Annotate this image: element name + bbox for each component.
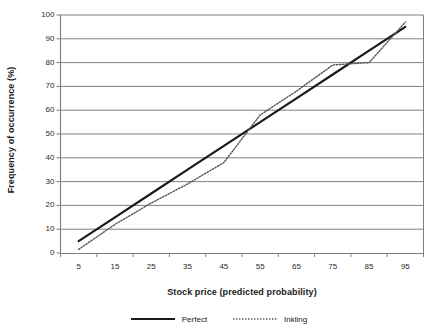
y-tick-label: 70 xyxy=(31,81,55,90)
y-tick-label: 100 xyxy=(31,10,55,19)
y-tick-label: 90 xyxy=(31,34,55,43)
legend-label-perfect: Perfect xyxy=(182,315,207,324)
x-axis-title: Stock price (predicted probability) xyxy=(167,287,317,297)
x-tick-label: 25 xyxy=(136,262,166,271)
y-tick-label: 10 xyxy=(31,224,55,233)
legend-swatch-perfect xyxy=(131,315,175,323)
x-axis-title-wrap: Stock price (predicted probability) xyxy=(60,281,424,299)
x-tick-label: 5 xyxy=(64,262,94,271)
x-tick-label: 75 xyxy=(318,262,348,271)
y-tick-label: 0 xyxy=(31,248,55,257)
y-tick-label: 20 xyxy=(31,200,55,209)
y-tick-label: 50 xyxy=(31,129,55,138)
y-tick-label: 80 xyxy=(31,58,55,67)
y-tick-label: 40 xyxy=(31,153,55,162)
legend-label-inkling: Inkling xyxy=(284,315,307,324)
legend-item-inkling: Inkling xyxy=(233,315,307,324)
x-tick-label: 85 xyxy=(354,262,384,271)
y-tick-label: 30 xyxy=(31,177,55,186)
legend-item-perfect: Perfect xyxy=(131,315,207,324)
x-tick-label: 45 xyxy=(209,262,239,271)
x-tick-label: 35 xyxy=(173,262,203,271)
chart-container: Frequency of occurrence (%) 010203040506… xyxy=(0,0,438,335)
x-tick-label: 65 xyxy=(281,262,311,271)
legend-swatch-inkling xyxy=(233,315,277,323)
x-tick-label: 15 xyxy=(100,262,130,271)
y-tick-label: 60 xyxy=(31,105,55,114)
chart-legend: Perfect Inkling xyxy=(0,306,438,332)
x-tick-label: 55 xyxy=(245,262,275,271)
series-line-inkling xyxy=(79,22,406,249)
x-tick-label: 95 xyxy=(390,262,420,271)
